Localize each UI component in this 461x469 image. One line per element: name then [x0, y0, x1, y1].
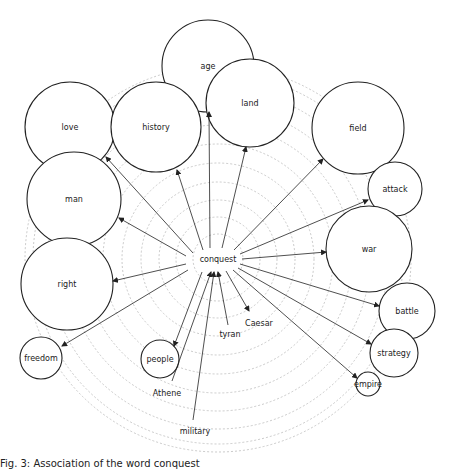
edge-tyran	[218, 272, 228, 325]
figure-caption: Fig. 3: Association of the word conquest	[0, 458, 200, 469]
edge-athene	[172, 272, 211, 381]
edge-land	[222, 147, 246, 248]
node-war: war	[326, 206, 412, 292]
node-label: strategy	[377, 349, 411, 358]
node-label: right	[58, 280, 77, 289]
edge-war	[242, 252, 326, 259]
edge-military	[193, 272, 214, 420]
node-empire: empire	[354, 372, 382, 396]
node-label: people	[146, 355, 173, 364]
node-label: age	[201, 62, 216, 71]
node-land: land	[206, 59, 294, 147]
node-military: military	[180, 427, 211, 436]
node-strategy: strategy	[370, 329, 418, 377]
node-caesar: Caesar	[245, 319, 273, 328]
node-people: people	[141, 340, 179, 378]
node-label: man	[65, 195, 83, 204]
node-tyran: tyran	[219, 330, 240, 339]
edge-history	[177, 170, 203, 250]
node-label: empire	[354, 380, 382, 389]
center-node: conquest	[200, 255, 237, 264]
node-label: tyran	[219, 330, 240, 339]
word-nodes: agelandlovehistoryfieldmanattackwarright…	[20, 20, 435, 436]
node-label: land	[241, 99, 258, 108]
node-label: love	[62, 123, 79, 132]
edge-field	[234, 159, 323, 250]
node-freedom: freedom	[20, 337, 62, 379]
node-label: attack	[382, 185, 407, 194]
node-label: military	[180, 427, 211, 436]
node-field: field	[312, 82, 404, 174]
node-label: field	[349, 124, 366, 133]
node-label: war	[362, 245, 377, 254]
node-man: man	[27, 152, 121, 246]
node-history: history	[111, 82, 201, 172]
edge-man	[119, 218, 186, 256]
edge-right	[113, 264, 186, 281]
node-label: Athene	[153, 389, 182, 398]
node-label: Caesar	[245, 319, 273, 328]
node-label: battle	[395, 307, 418, 316]
edge-age	[209, 112, 210, 248]
center-word-label: conquest	[200, 255, 237, 264]
node-right: right	[21, 238, 113, 330]
node-label: history	[142, 123, 170, 132]
node-athene: Athene	[153, 389, 182, 398]
node-label: freedom	[24, 354, 58, 363]
